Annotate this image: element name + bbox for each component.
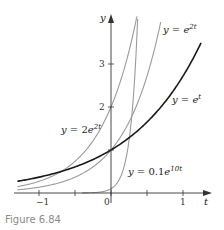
x-tick-label: −1 (36, 197, 49, 207)
figure-caption: Figure 6.84 (5, 214, 61, 225)
y-axis-label: y (99, 12, 106, 23)
x-tick-label: 0 (104, 197, 110, 207)
x-tick-label: 1 (180, 197, 186, 207)
chart-figure: −101 23 t y y = ety = e2ty = 2e2ty = 0.1… (0, 0, 224, 230)
y-axis-arrow-icon (108, 14, 114, 23)
curve-e-2t- (17, 22, 160, 190)
curve-label: y = et (171, 93, 201, 105)
axes: −101 23 t y (14, 12, 212, 207)
curve-label: y = 2e2t (60, 123, 101, 135)
y-tick-label: 3 (99, 59, 105, 69)
y-tick-label: 2 (99, 102, 105, 112)
x-axis-label: t (204, 196, 209, 207)
curve-label: y = 0.1e10t (127, 165, 182, 177)
curve-2e-2t- (17, 16, 137, 186)
curve-label: y = e2t (162, 23, 197, 35)
